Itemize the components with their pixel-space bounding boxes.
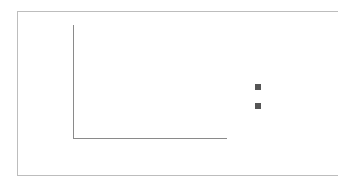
x-axis	[73, 138, 227, 139]
legend-swatch-icon	[255, 84, 261, 90]
legend	[255, 77, 263, 115]
legend-item-success	[255, 77, 263, 96]
y-axis	[73, 25, 74, 139]
legend-swatch-icon	[255, 103, 261, 109]
chart-frame	[17, 11, 338, 176]
legend-item-error	[255, 96, 263, 115]
